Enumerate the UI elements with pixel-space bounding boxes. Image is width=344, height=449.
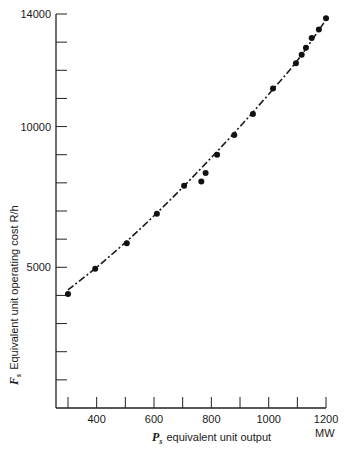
x-tick-label: 1200 [314, 413, 338, 425]
data-point [198, 178, 204, 184]
axes: 5000100001400040060080010001200 [20, 8, 338, 425]
data-point [303, 45, 309, 51]
fitted-curve [68, 20, 326, 290]
data-point [65, 291, 71, 297]
data-point [270, 86, 276, 92]
x-axis-unit: MW [315, 427, 335, 439]
data-point [231, 132, 237, 138]
data-point [309, 35, 315, 41]
chart: 5000100001400040060080010001200 Psequiva… [0, 0, 344, 449]
x-tick-label: 800 [202, 413, 220, 425]
data-point [92, 266, 98, 272]
y-tick-label: 10000 [20, 121, 51, 133]
y-tick-label: 5000 [27, 261, 51, 273]
data-point [203, 170, 209, 176]
curve-path [68, 20, 326, 290]
y-tick-label: 14000 [20, 8, 51, 20]
data-point [250, 111, 256, 117]
x-tick-label: 600 [145, 413, 163, 425]
data-point [181, 183, 187, 189]
x-tick-label: 400 [87, 413, 105, 425]
data-point [124, 240, 130, 246]
y-axis-title: FsEquivalent unit operating cost R/h [7, 205, 23, 386]
data-point [293, 60, 299, 66]
data-point [154, 211, 160, 217]
data-points [65, 15, 329, 297]
x-tick-label: 1000 [256, 413, 280, 425]
x-axis-title: Psequivalent unit output [152, 430, 271, 446]
data-point [316, 26, 322, 32]
data-point [323, 15, 329, 21]
data-point [214, 152, 220, 158]
data-point [299, 52, 305, 58]
